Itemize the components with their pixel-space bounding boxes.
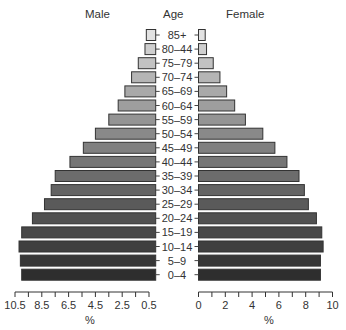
- female-axis-tick: 10: [326, 299, 338, 311]
- male-bar: [132, 72, 156, 83]
- female-bar: [199, 269, 321, 280]
- age-group-label: 75–79: [162, 57, 193, 69]
- age-group-label: 55–59: [162, 114, 193, 126]
- male-axis-unit: %: [85, 314, 95, 326]
- male-bar: [83, 142, 155, 153]
- male-bar: [55, 171, 156, 182]
- female-bar: [199, 255, 321, 266]
- age-group-label: 25–29: [162, 198, 193, 210]
- female-bar: [199, 185, 305, 196]
- male-bar: [44, 199, 155, 210]
- female-bar: [199, 30, 206, 41]
- female-axis-tick: 4: [249, 299, 255, 311]
- age-group-label: 35–39: [162, 170, 193, 182]
- male-bar: [109, 114, 156, 125]
- female-bar: [199, 114, 246, 125]
- male-bar: [19, 241, 156, 252]
- age-group-label: 10–14: [162, 241, 193, 253]
- age-group-label: 60–64: [162, 100, 193, 112]
- female-bar: [199, 199, 309, 210]
- female-bar: [199, 44, 207, 55]
- female-axis-tick: 0: [195, 299, 201, 311]
- male-bar: [95, 128, 155, 139]
- age-group-label: 30–34: [162, 184, 193, 196]
- male-bar: [118, 100, 156, 111]
- age-group-label: 70–74: [162, 71, 193, 83]
- male-bar: [125, 86, 156, 97]
- pyramid-plot: 85+80–4475–7970–7465–6960–6455–5950–5445…: [0, 0, 346, 330]
- female-axis-unit: %: [264, 314, 274, 326]
- male-bar: [70, 156, 156, 167]
- female-axis-tick: 6: [276, 299, 282, 311]
- female-bar: [199, 156, 287, 167]
- male-axis-tick: 10.5: [4, 299, 25, 311]
- male-bar: [138, 58, 155, 69]
- age-group-label: 5–9: [168, 255, 186, 267]
- female-axis-tick: 8: [303, 299, 309, 311]
- female-bar: [199, 227, 322, 238]
- male-axis-tick: 8.5: [34, 299, 49, 311]
- population-pyramid-chart: Male Age Female 85+80–4475–7970–7465–696…: [0, 0, 346, 330]
- age-group-label: 85+: [168, 29, 187, 41]
- age-group-label: 80–44: [162, 43, 193, 55]
- male-axis-tick: 4.5: [88, 299, 103, 311]
- female-axis-tick: 2: [222, 299, 228, 311]
- female-bar: [199, 58, 214, 69]
- age-group-label: 20–24: [162, 212, 193, 224]
- female-bar: [199, 86, 227, 97]
- male-bar: [146, 30, 155, 41]
- female-bar: [199, 171, 300, 182]
- male-bar: [22, 269, 156, 280]
- age-group-label: 65–69: [162, 85, 193, 97]
- female-bar: [199, 100, 235, 111]
- male-bar: [20, 255, 155, 266]
- male-bar: [32, 213, 155, 224]
- male-bar: [145, 44, 156, 55]
- male-axis-tick: 2.5: [115, 299, 130, 311]
- female-bar: [199, 213, 317, 224]
- female-bar: [199, 72, 220, 83]
- age-group-label: 45–49: [162, 142, 193, 154]
- female-bar: [199, 128, 263, 139]
- age-group-label: 15–19: [162, 226, 193, 238]
- male-axis-tick: 0.5: [141, 299, 156, 311]
- male-bar: [22, 227, 156, 238]
- female-bar: [199, 241, 324, 252]
- male-axis-tick: 6.5: [61, 299, 76, 311]
- age-group-label: 50–54: [162, 128, 193, 140]
- male-bar: [51, 185, 156, 196]
- female-bar: [199, 142, 275, 153]
- age-group-label: 0–4: [168, 269, 186, 281]
- age-group-label: 40–44: [162, 156, 193, 168]
